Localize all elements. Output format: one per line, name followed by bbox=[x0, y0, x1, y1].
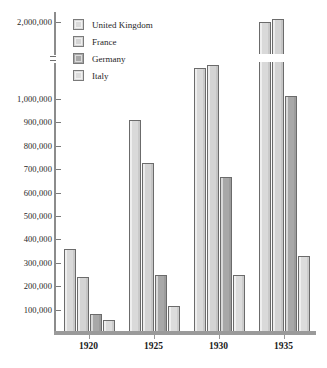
x-axis-label-1920: 1920 bbox=[59, 341, 119, 351]
legend-label: Italy bbox=[92, 71, 109, 81]
x-axis-tick bbox=[89, 335, 90, 339]
bar-1920-united-kingdom bbox=[64, 249, 77, 333]
y-axis-tick-label: 1,000,000 bbox=[0, 94, 52, 104]
legend-label: France bbox=[92, 37, 117, 47]
y-axis-tick-label: 300,000 bbox=[0, 258, 52, 268]
chart-legend: United KingdomFranceGermanyItaly bbox=[73, 16, 153, 84]
legend-item-france: France bbox=[73, 33, 153, 50]
legend-item-united-kingdom: United Kingdom bbox=[73, 16, 153, 33]
x-axis-tick bbox=[284, 335, 285, 339]
bar-1925-italy bbox=[168, 306, 181, 333]
x-axis-label-1935: 1935 bbox=[254, 341, 314, 351]
y-axis-tick-label: 100,000 bbox=[0, 305, 52, 315]
legend-swatch-icon bbox=[73, 19, 84, 30]
bar-chart: 100,000200,000300,000400,000500,000600,0… bbox=[0, 0, 327, 368]
bar-1930-united-kingdom bbox=[194, 68, 207, 333]
y-axis-tick-label: 700,000 bbox=[0, 164, 52, 174]
bar-1935-germany bbox=[285, 96, 298, 333]
y-axis-tick-label: 900,000 bbox=[0, 117, 52, 127]
legend-item-germany: Germany bbox=[73, 50, 153, 67]
y-axis-tick-label: 800,000 bbox=[0, 141, 52, 151]
x-axis-label-1925: 1925 bbox=[124, 341, 184, 351]
bar-1930-germany bbox=[220, 177, 233, 333]
y-axis-tick-label: 200,000 bbox=[0, 281, 52, 291]
bar-1920-france bbox=[77, 277, 90, 333]
y-axis-tick-label: 600,000 bbox=[0, 188, 52, 198]
bar-1925-france bbox=[142, 163, 155, 333]
bar-1935-france bbox=[272, 19, 285, 333]
bar-1935-italy bbox=[298, 256, 311, 333]
y-axis-tick-label: 500,000 bbox=[0, 211, 52, 221]
bar-1925-united-kingdom bbox=[129, 120, 142, 333]
legend-swatch-icon bbox=[73, 53, 84, 64]
legend-swatch-icon bbox=[73, 36, 84, 47]
legend-swatch-icon bbox=[73, 70, 84, 81]
bar-1925-germany bbox=[155, 275, 168, 334]
x-axis-label-1930: 1930 bbox=[189, 341, 249, 351]
y-axis-tick-label: 400,000 bbox=[0, 234, 52, 244]
bar-1930-italy bbox=[233, 275, 246, 334]
bar-1935-united-kingdom bbox=[259, 22, 272, 333]
x-axis-tick bbox=[219, 335, 220, 339]
legend-label: Germany bbox=[92, 54, 126, 64]
y-axis-tick-label: 2,000,000 bbox=[0, 17, 52, 27]
legend-label: United Kingdom bbox=[92, 20, 153, 30]
bar-1930-france bbox=[207, 65, 220, 333]
x-axis-tick bbox=[154, 335, 155, 339]
legend-item-italy: Italy bbox=[73, 67, 153, 84]
x-axis-line bbox=[54, 331, 316, 335]
